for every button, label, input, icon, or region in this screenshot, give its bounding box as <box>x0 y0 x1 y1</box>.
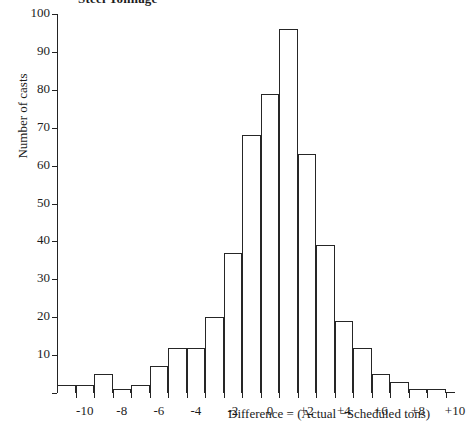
y-axis-tick-mark <box>52 90 57 91</box>
histogram-bar <box>242 135 261 393</box>
y-axis-tick-mark <box>52 166 57 167</box>
histogram-bar <box>150 366 169 393</box>
histogram-bar <box>205 317 224 393</box>
x-axis-tick-label: -8 <box>102 403 142 419</box>
histogram-bar <box>57 385 76 393</box>
histogram-bar <box>113 389 132 393</box>
y-axis-tick-label: 70 <box>37 119 50 135</box>
y-axis-tick-mark <box>52 393 57 394</box>
y-axis-tick-mark <box>52 279 57 280</box>
y-axis-tick-mark <box>52 355 57 356</box>
y-axis-tick-mark <box>52 128 57 129</box>
x-axis-caption: Difference = (Actual −Scheduled tons) <box>228 406 430 422</box>
x-axis-tick-label: -10 <box>65 403 105 419</box>
y-axis-tick-mark <box>52 52 57 53</box>
y-axis-tick-label: 100 <box>31 5 51 21</box>
y-axis-tick-mark <box>52 241 57 242</box>
histogram-bar <box>131 385 150 393</box>
histogram-bar <box>353 348 372 393</box>
histogram-bar <box>427 389 446 393</box>
histogram-bar <box>409 389 428 393</box>
plot-area: 102030405060708090100 -10-8-6-4-20+2+4+6… <box>57 14 455 393</box>
x-axis-tick-mark <box>446 392 447 398</box>
histogram-bar <box>298 154 317 393</box>
x-axis-tick-label: -4 <box>176 403 216 419</box>
y-axis-tick-label: 80 <box>37 81 50 97</box>
y-axis-tick-label: 20 <box>37 308 50 324</box>
y-axis-line <box>57 14 58 393</box>
x-axis-tick-label: +10 <box>435 403 470 419</box>
y-axis-title: Number of casts <box>15 46 31 186</box>
y-axis-tick-label: 60 <box>37 157 50 173</box>
histogram-bar <box>261 94 280 393</box>
histogram-bar <box>335 321 354 393</box>
histogram-bar <box>372 374 391 393</box>
histogram-bar <box>316 245 335 393</box>
y-axis-tick-mark <box>52 204 57 205</box>
y-axis-tick-label: 30 <box>37 270 50 286</box>
histogram-bar <box>390 382 409 393</box>
y-axis-tick-label: 40 <box>37 232 50 248</box>
histogram-bar <box>279 29 298 393</box>
y-axis-tick-label: 50 <box>37 195 50 211</box>
histogram-bar <box>224 253 243 393</box>
chart-title: Steel Tonnage <box>78 0 378 7</box>
histogram-bar <box>187 348 206 393</box>
histogram-bar <box>168 348 187 393</box>
histogram-bar <box>76 385 95 393</box>
y-axis-tick-mark <box>52 14 57 15</box>
x-axis-tick-label: -6 <box>139 403 179 419</box>
y-axis-tick-label: 90 <box>37 43 50 59</box>
y-axis-tick-mark <box>52 317 57 318</box>
y-axis-tick-label: 10 <box>37 346 50 362</box>
histogram-bar <box>94 374 113 393</box>
